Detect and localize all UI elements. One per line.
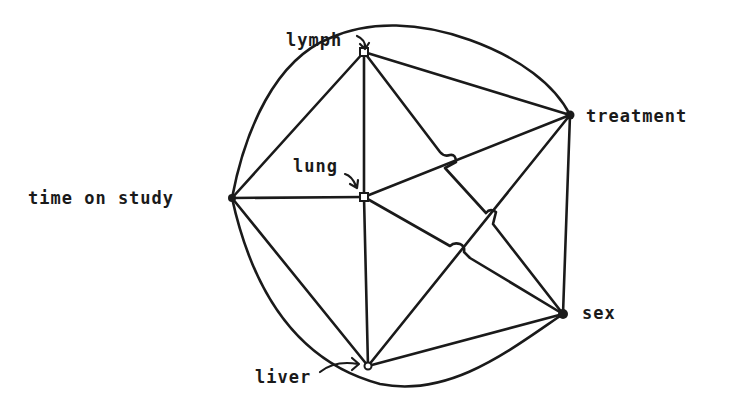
node-lung [360,193,368,201]
edge-lung-liver [364,197,368,366]
label-liver: liver [255,367,311,387]
label-treatment: treatment [586,106,687,126]
label-lung: lung [293,156,338,176]
edge-lymph-sex [364,52,563,314]
label-time-on-study: time on study [28,188,174,208]
edge-time-liver [232,198,368,366]
node-treatment [566,111,575,120]
edge-time-lung [232,197,364,198]
edge-time-treatment [232,25,570,198]
edge-treatment-liver [368,115,570,366]
edge-lung-treatment [364,115,570,197]
node-time [228,194,236,202]
edge-lymph-treatment [364,52,570,115]
arrow-lymph-icon [357,36,369,49]
edge-lymph-time [232,52,364,198]
node-liver [365,363,372,370]
edge-lung-sex [364,197,563,314]
graph-diagram: lymph treatment time on study lung sex l… [0,0,732,399]
edge-treatment-sex [563,115,570,314]
node-sex [558,309,568,319]
arrow-lung-icon [345,174,358,188]
label-sex: sex [582,303,616,323]
label-lymph: lymph [286,30,342,50]
edge-liver-sex [368,314,563,366]
